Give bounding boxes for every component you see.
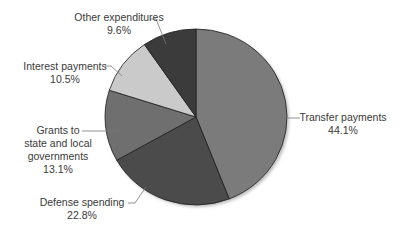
label-interest-pct: 10.5% xyxy=(15,73,115,86)
label-other-expenditures: Other expenditures 9.6% xyxy=(64,11,174,37)
label-grants-line2: state and local xyxy=(8,137,108,150)
label-defense-spending: Defense spending 22.8% xyxy=(32,196,132,222)
label-defense-pct: 22.8% xyxy=(32,209,132,222)
label-transfer-pct: 44.1% xyxy=(293,124,393,137)
label-transfer-name: Transfer payments xyxy=(293,111,393,124)
label-grants-line1: Grants to xyxy=(8,124,108,137)
label-interest-name: Interest payments xyxy=(15,60,115,73)
label-other-name: Other expenditures xyxy=(64,11,174,24)
label-grants-pct: 13.1% xyxy=(8,163,108,176)
label-transfer-payments: Transfer payments 44.1% xyxy=(293,111,393,137)
label-other-pct: 9.6% xyxy=(64,24,174,37)
pie-slices xyxy=(105,29,287,205)
label-grants-line3: governments xyxy=(8,150,108,163)
label-defense-name: Defense spending xyxy=(32,196,132,209)
label-interest-payments: Interest payments 10.5% xyxy=(15,60,115,86)
label-grants: Grants to state and local governments 13… xyxy=(8,124,108,176)
